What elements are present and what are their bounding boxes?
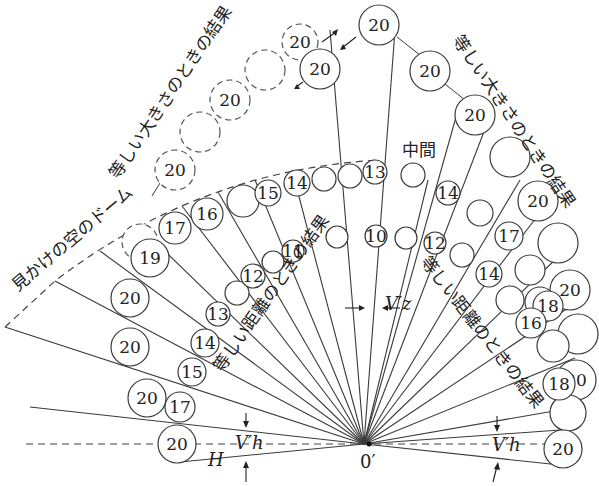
svg-text:20: 20 bbox=[219, 90, 241, 110]
svg-text:20: 20 bbox=[289, 32, 311, 52]
visual-angle-diagram: 20 20 20 20 20 20 20 20 20 bbox=[0, 0, 599, 486]
top-circle: 20 bbox=[359, 5, 399, 45]
equal-size-left-dashed-chain: 20 20 20 bbox=[122, 24, 318, 260]
svg-text:17: 17 bbox=[498, 226, 520, 246]
svg-text:20: 20 bbox=[136, 388, 158, 408]
svg-text:15: 15 bbox=[257, 183, 279, 203]
vh-right-label: V′h bbox=[492, 434, 521, 455]
svg-text:14: 14 bbox=[194, 333, 216, 353]
equal-distance-chain: 17 15 14 13 12 11 10 12 14 18 bbox=[165, 225, 575, 422]
svg-text:14: 14 bbox=[437, 183, 459, 203]
svg-text:17: 17 bbox=[169, 397, 191, 417]
svg-text:10: 10 bbox=[365, 226, 387, 246]
svg-text:14: 14 bbox=[286, 173, 308, 193]
svg-text:12: 12 bbox=[242, 266, 264, 286]
origin-point bbox=[367, 442, 372, 447]
svg-text:20: 20 bbox=[419, 61, 441, 81]
svg-text:12: 12 bbox=[424, 233, 446, 253]
svg-text:13: 13 bbox=[207, 304, 229, 324]
vz-label: V′z bbox=[385, 293, 412, 314]
origin-label: 0′ bbox=[360, 451, 376, 472]
svg-text:13: 13 bbox=[364, 162, 386, 182]
svg-text:20: 20 bbox=[464, 105, 486, 125]
svg-text:20: 20 bbox=[119, 337, 141, 357]
svg-text:20: 20 bbox=[552, 439, 574, 459]
h-label: H bbox=[207, 449, 224, 470]
svg-text:18: 18 bbox=[548, 374, 570, 394]
svg-text:19: 19 bbox=[139, 248, 161, 268]
svg-text:16: 16 bbox=[196, 204, 218, 224]
svg-text:20: 20 bbox=[559, 280, 581, 300]
outer-left-chain: 19 20 20 20 20 bbox=[111, 239, 196, 463]
svg-text:20: 20 bbox=[166, 434, 188, 454]
svg-text:15: 15 bbox=[181, 362, 203, 382]
vh-left-label: V′h bbox=[235, 432, 264, 453]
svg-text:20: 20 bbox=[309, 59, 331, 79]
svg-text:20: 20 bbox=[368, 15, 390, 35]
apparent-dome-label: 見かけの空のドーム bbox=[8, 182, 137, 295]
svg-text:20: 20 bbox=[119, 288, 141, 308]
svg-text:20: 20 bbox=[527, 191, 549, 211]
svg-text:14: 14 bbox=[478, 264, 500, 284]
svg-text:17: 17 bbox=[164, 218, 186, 238]
svg-text:16: 16 bbox=[520, 313, 542, 333]
middle-label: 中間 bbox=[402, 140, 436, 160]
svg-text:20: 20 bbox=[164, 160, 186, 180]
